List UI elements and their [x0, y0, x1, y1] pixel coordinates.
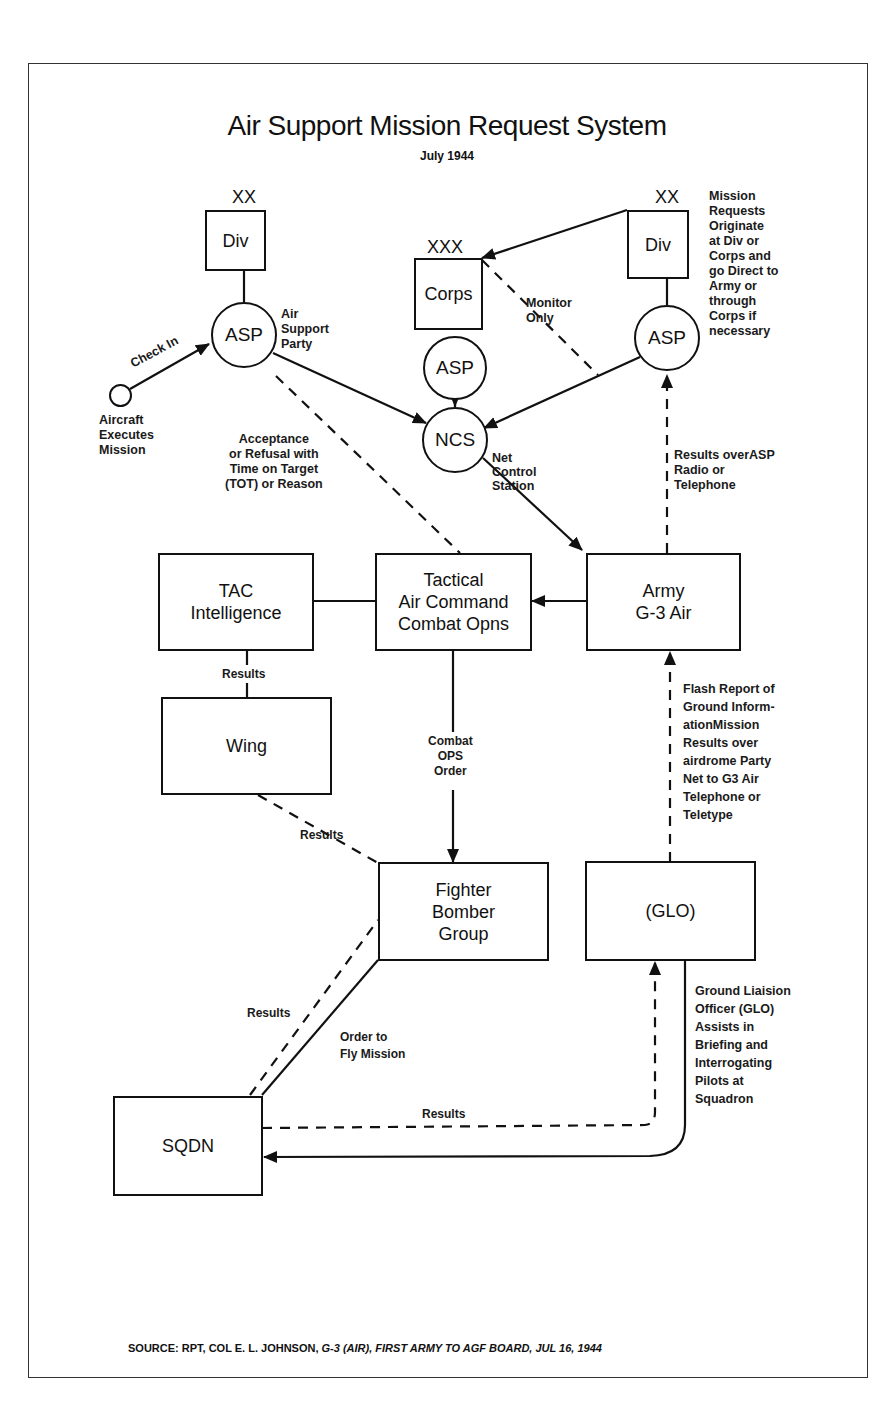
link-results-sqdn-glo [262, 962, 655, 1128]
link-order-fly [262, 960, 378, 1095]
monitor-only-label: Monitor Only [526, 296, 572, 326]
source-italic: G-3 (AIR), FIRST ARMY TO AGF BOARD, JUL … [322, 1342, 602, 1354]
ncs-note: Net Control Station [492, 451, 536, 493]
source-prefix: SOURCE: RPT, COL E. L. JOHNSON, [128, 1342, 322, 1354]
aircraft-circle[interactable] [109, 384, 132, 407]
asp-left-circle[interactable]: ASP [211, 302, 277, 368]
corps-box[interactable]: Corps [414, 258, 483, 330]
army-g3-air-box[interactable]: Army G-3 Air [586, 553, 741, 651]
asp-mid-circle[interactable]: ASP [423, 336, 487, 400]
mission-requests-note: Mission Requests Originate at Div or Cor… [709, 189, 778, 339]
results-wing-label: Results [300, 828, 343, 843]
asp-note: Air Support Party [281, 307, 329, 352]
results-asp-label: Results overASP Radio or Telephone [674, 448, 775, 493]
ncs-circle[interactable]: NCS [422, 407, 488, 473]
link-asp-ncs [273, 353, 426, 423]
fighter-bomber-group-box[interactable]: Fighter Bomber Group [378, 862, 549, 961]
link-div-corps [482, 210, 627, 258]
results-sqdn-glo-label: Results [422, 1107, 465, 1122]
glo-box[interactable]: (GLO) [585, 861, 756, 961]
echelon-xx-left: XX [204, 187, 284, 208]
acceptance-label: Acceptance or Refusal with Time on Targe… [225, 432, 323, 492]
asp-right-circle[interactable]: ASP [634, 305, 700, 371]
order-to-fly-label: Order to Fly Mission [340, 1029, 405, 1063]
source-citation: SOURCE: RPT, COL E. L. JOHNSON, G-3 (AIR… [128, 1342, 602, 1354]
aircraft-label: Aircraft Executes Mission [99, 413, 154, 458]
div-right-box[interactable]: Div [627, 210, 689, 279]
results-sqdn-fbg-label: Results [247, 1006, 290, 1021]
echelon-xx-right: XX [627, 187, 707, 208]
link-asp-right-ncs [484, 357, 640, 428]
div-left-box[interactable]: Div [205, 210, 266, 271]
flash-report-note: Flash Report of Ground Inform- ationMiss… [683, 680, 775, 824]
combat-ops-order-label: Combat OPS Order [428, 734, 473, 779]
echelon-xxx: XXX [405, 237, 485, 258]
tactical-air-command-box[interactable]: Tactical Air Command Combat Opns [375, 553, 532, 651]
glo-note: Ground Liaision Officer (GLO) Assists in… [695, 982, 791, 1108]
tac-intelligence-box[interactable]: TAC Intelligence [158, 553, 314, 651]
wing-box[interactable]: Wing [161, 697, 332, 795]
results-intel-label: Results [222, 667, 265, 682]
sqdn-box[interactable]: SQDN [113, 1096, 263, 1196]
